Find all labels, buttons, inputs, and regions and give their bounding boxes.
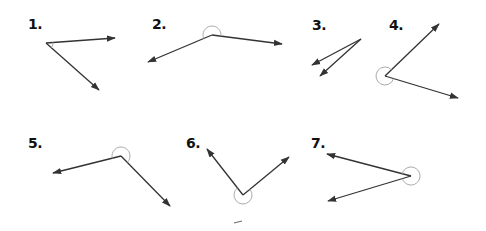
ray-arrow-icon <box>385 76 458 98</box>
angle-4 <box>376 24 458 98</box>
angle-arc-icon <box>112 147 130 162</box>
ray-arrow-icon <box>121 156 170 206</box>
ray-arrow-icon <box>207 149 243 195</box>
ray-arrow-icon <box>385 24 439 76</box>
angle-7 <box>327 154 420 201</box>
angle-3 <box>312 39 361 76</box>
ray-arrow-icon <box>148 35 212 62</box>
angle-arc-icon <box>203 26 221 38</box>
angle-arc-icon <box>402 167 420 185</box>
ray-arrow-icon <box>327 154 411 176</box>
ray-arrow-icon <box>212 35 282 44</box>
angle-arc-icon <box>376 67 394 85</box>
stray-mark <box>234 221 242 223</box>
ray-arrow-icon <box>46 43 99 90</box>
angle-2 <box>148 26 282 62</box>
angle-1 <box>46 38 115 90</box>
ray-arrow-icon <box>328 176 411 201</box>
angle-arc-icon <box>51 42 53 47</box>
ray-arrow-icon <box>53 156 121 173</box>
ray-arrow-icon <box>46 38 115 43</box>
angle-5 <box>53 147 170 206</box>
ray-arrow-icon <box>243 157 289 195</box>
angle-figures <box>0 0 486 231</box>
angle-6 <box>207 149 289 204</box>
